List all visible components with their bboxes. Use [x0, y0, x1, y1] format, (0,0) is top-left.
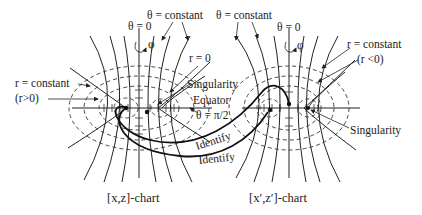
right-ring-singularity-left	[268, 108, 272, 112]
left-theta-zero-label: θ = 0	[128, 20, 152, 32]
right-theta-constant-label: θ = constant	[216, 9, 273, 21]
center-singularity-label: Singularity	[187, 78, 238, 91]
right-theta-zero-label: θ = 0	[277, 21, 301, 33]
center-equator-label: Equator	[193, 94, 230, 107]
left-chart-caption: [x,z]-chart	[107, 191, 160, 205]
left-r-zero-label: r = 0	[189, 52, 211, 64]
right-r-constant-label: r = constant	[347, 38, 402, 50]
center-theta-pi-half-label: θ = π/2	[196, 109, 229, 121]
kerr-charts-diagram: θ = 0 θ = constant φ r = 0 r = constant …	[0, 0, 422, 215]
left-phi-rotation-icon	[135, 42, 146, 52]
labels: θ = 0 θ = constant φ r = 0 r = constant …	[15, 9, 402, 205]
right-singularity-label: Singularity	[350, 124, 401, 137]
right-phi-label: φ	[297, 39, 304, 52]
left-r-constant-label: r = constant	[15, 77, 70, 89]
right-ring-singularity-right	[306, 106, 310, 110]
left-phi-label: φ	[148, 38, 155, 51]
right-chart	[229, 28, 360, 182]
right-chart-caption: [x′,z′]-chart	[249, 191, 307, 205]
identify-curve-lower	[119, 108, 268, 157]
right-r-negative-label: (r <0)	[357, 53, 384, 66]
right-phi-rotation-icon	[285, 42, 296, 52]
left-theta-constant-label: θ = constant	[147, 9, 204, 21]
right-theta-constant-curves	[236, 36, 356, 182]
identify-lower-label: Identify	[198, 150, 236, 167]
left-ring-singularity-right	[145, 110, 149, 114]
left-r-positive-label: (r>0)	[15, 92, 39, 105]
